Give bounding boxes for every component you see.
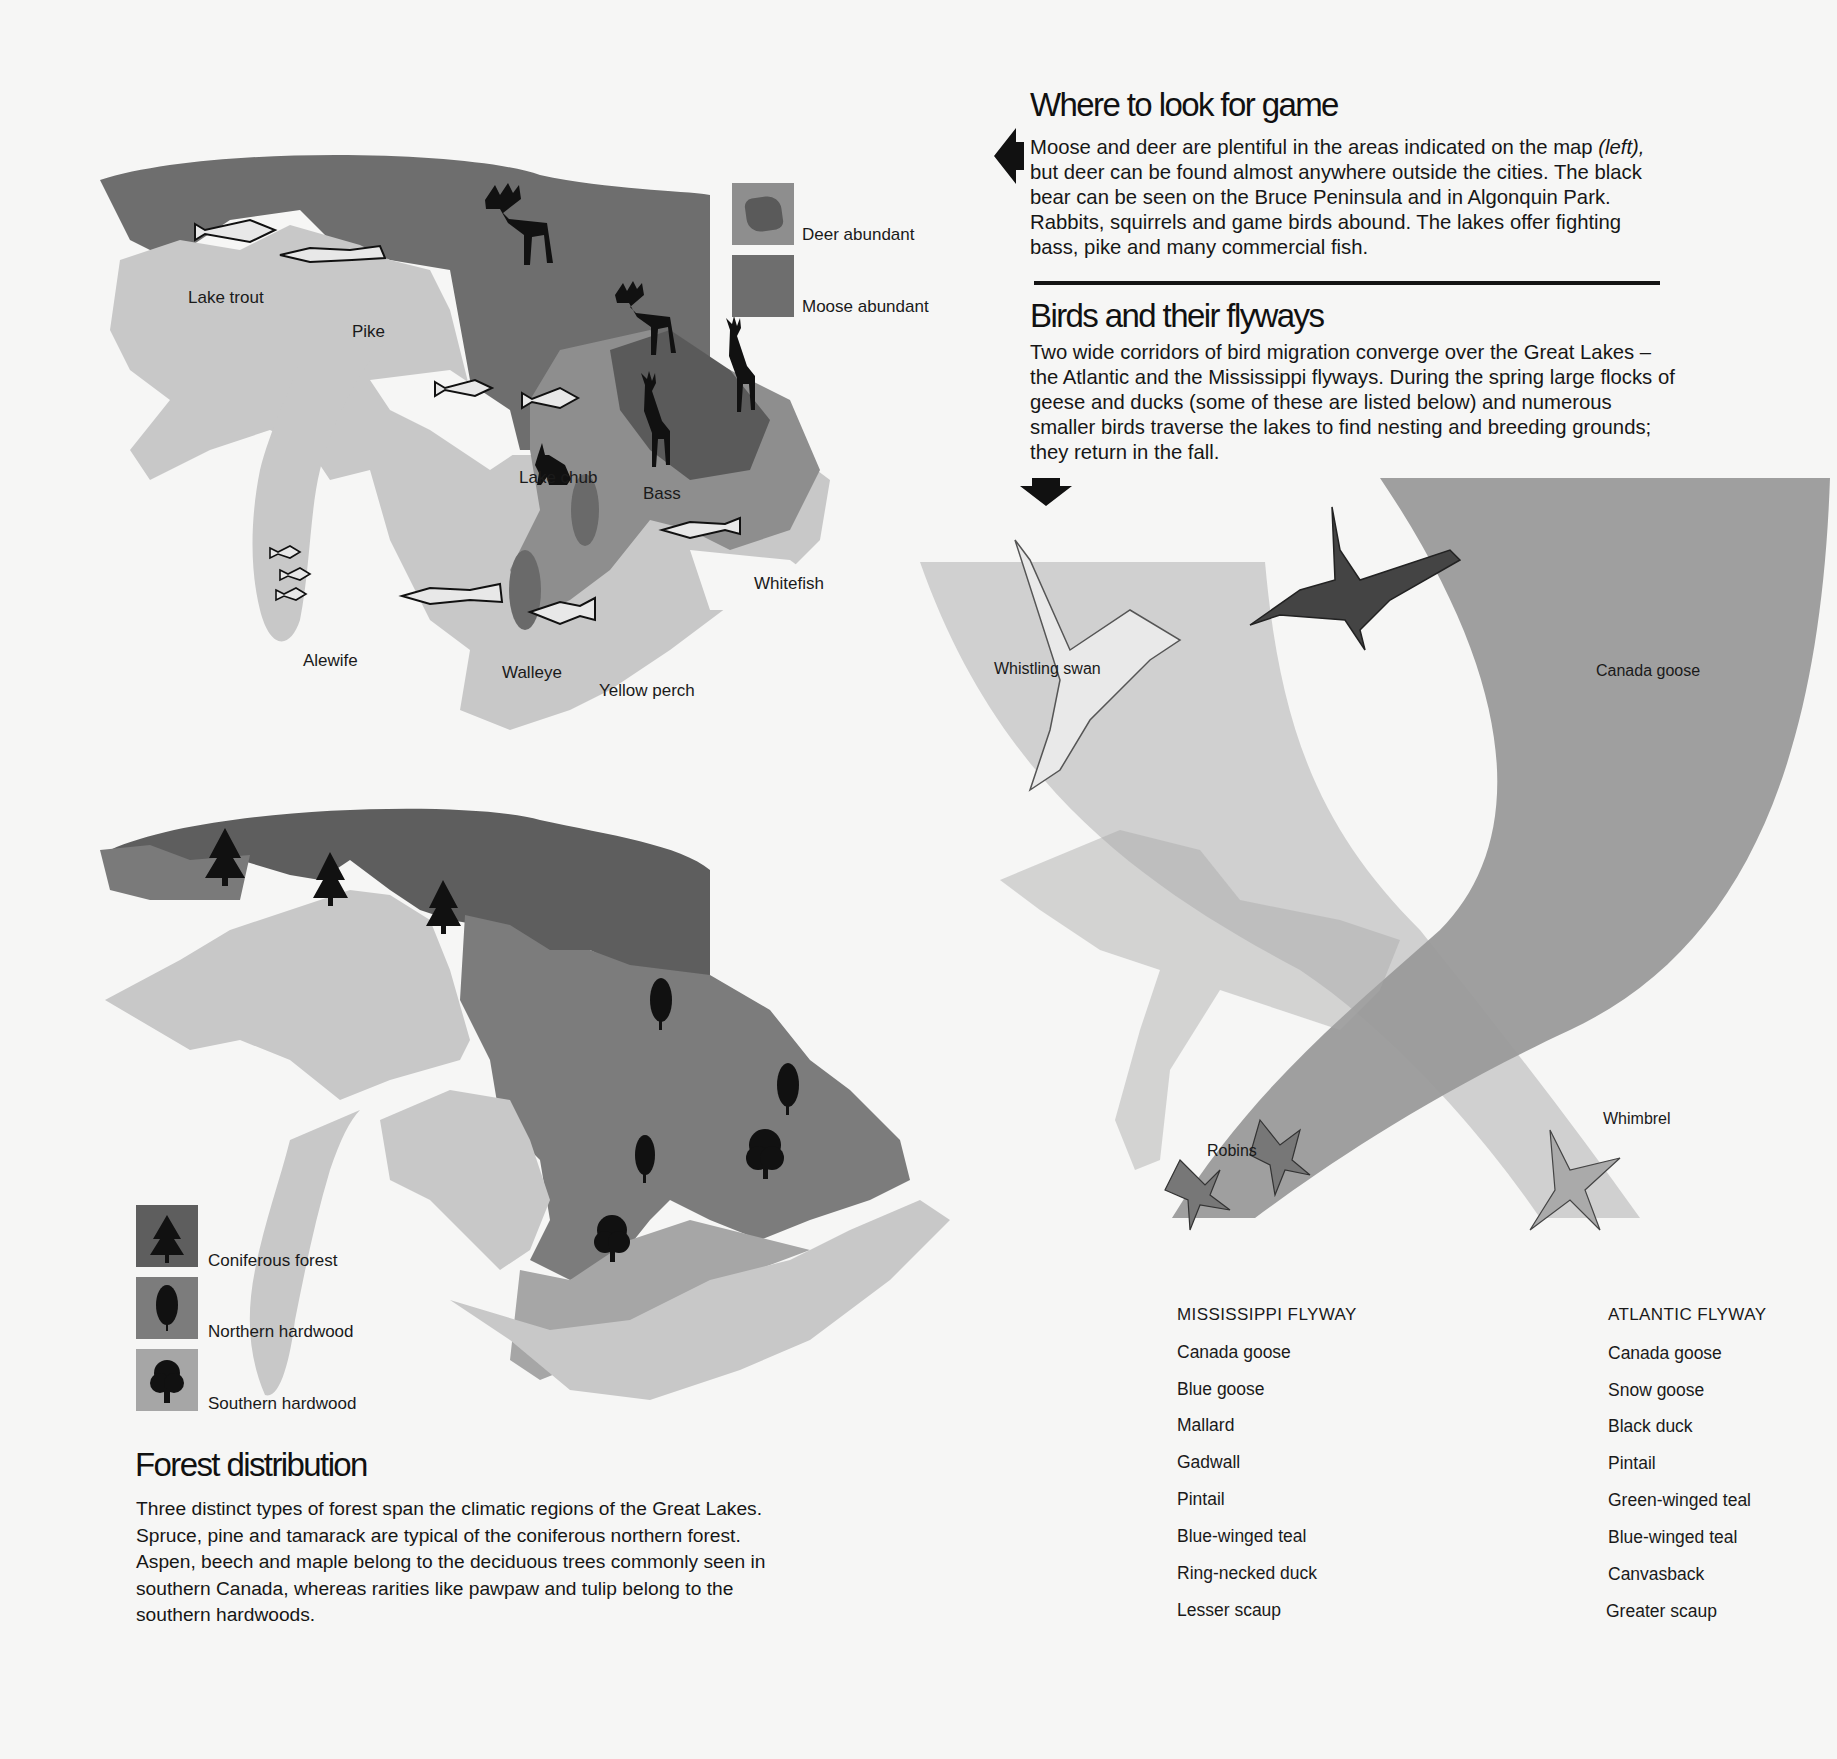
mississippi-flyway-title: MISSISSIPPI FLYWAY (1177, 1305, 1357, 1325)
canada-goose-label: Canada goose (1596, 662, 1700, 680)
list-item: Canada goose (1177, 1342, 1291, 1363)
northern-hardwood-label: Northern hardwood (208, 1322, 354, 1342)
list-item: Gadwall (1177, 1452, 1240, 1473)
northern-hardwood-tree-icon (136, 1277, 198, 1339)
moose-abundant-label: Moose abundant (802, 297, 929, 317)
section-divider (1034, 281, 1660, 285)
deer-patch (509, 550, 541, 630)
atlantic-flyway-list: ATLANTIC FLYWAY Canada goose Snow goose … (1608, 1305, 1837, 1635)
forest-section-paragraph: Three distinct types of forest span the … (136, 1496, 766, 1629)
list-item: Pintail (1608, 1453, 1656, 1474)
deer-abundant-label: Deer abundant (802, 225, 914, 245)
coniferous-forest-label: Coniferous forest (208, 1251, 337, 1271)
whimbrel-label: Whimbrel (1603, 1110, 1671, 1128)
list-item: Lesser scaup (1177, 1600, 1281, 1621)
robins-label: Robins (1207, 1142, 1257, 1160)
list-item: Snow goose (1608, 1380, 1704, 1401)
southern-hardwood-swatch (136, 1349, 198, 1411)
whistling-swan-label: Whistling swan (994, 660, 1101, 678)
list-item: Greater scaup (1606, 1601, 1717, 1622)
alewife-label: Alewife (303, 651, 358, 671)
lake-superior-region (105, 890, 470, 1100)
birds-section-title: Birds and their flyways (1030, 297, 1323, 335)
forest-section-title: Forest distribution (135, 1446, 367, 1484)
list-item: Green-winged teal (1608, 1490, 1751, 1511)
conifer-tree-icon (136, 1205, 198, 1267)
left-arrow-icon (994, 128, 1026, 184)
bass-label: Bass (643, 484, 681, 504)
lake-trout-label: Lake trout (188, 288, 264, 308)
list-item: Canvasback (1608, 1564, 1704, 1585)
northern-hardwood-swatch (136, 1277, 198, 1339)
flyway-map-graphic (920, 470, 1837, 1320)
list-item: Mallard (1177, 1415, 1234, 1436)
southern-hardwood-tree-icon (136, 1349, 198, 1411)
flyway-map: Whistling swan Canada goose Robins Whimb… (920, 470, 1837, 1320)
mississippi-flyway-list: MISSISSIPPI FLYWAY Canada goose Blue goo… (1177, 1305, 1497, 1635)
game-section-paragraph: Moose and deer are plentiful in the area… (1030, 135, 1670, 260)
forest-map-graphic (90, 800, 990, 1400)
moose-area-swatch (732, 255, 794, 317)
yellow-perch-label: Yellow perch (599, 681, 695, 701)
game-section-title: Where to look for game (1030, 86, 1338, 124)
deer-area-swatch (732, 183, 794, 245)
coniferous-swatch (136, 1205, 198, 1267)
whitefish-label: Whitefish (754, 574, 824, 594)
list-item: Pintail (1177, 1489, 1225, 1510)
southern-hardwood-label: Southern hardwood (208, 1394, 356, 1414)
list-item: Blue goose (1177, 1379, 1265, 1400)
walleye-label: Walleye (502, 663, 562, 683)
list-item: Blue-winged teal (1608, 1527, 1737, 1548)
pike-label: Pike (352, 322, 385, 342)
list-item: Black duck (1608, 1416, 1693, 1437)
forest-map (90, 800, 990, 1400)
list-item: Canada goose (1608, 1343, 1722, 1364)
atlantic-flyway-title: ATLANTIC FLYWAY (1608, 1305, 1766, 1325)
list-item: Ring-necked duck (1177, 1563, 1317, 1584)
list-item: Blue-winged teal (1177, 1526, 1306, 1547)
birds-section-paragraph: Two wide corridors of bird migration con… (1030, 340, 1675, 465)
lake-chub-label: Lake chub (519, 468, 597, 488)
